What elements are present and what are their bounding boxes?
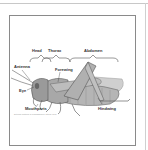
label-mouthparts: Mouthparts bbox=[25, 106, 47, 111]
grasshopper-illustration bbox=[0, 0, 148, 150]
label-antenna: Antenna bbox=[14, 64, 30, 69]
label-abdomen: Abdomen bbox=[84, 48, 102, 53]
section-braces bbox=[30, 55, 118, 62]
label-forewing: Forewing bbox=[55, 67, 73, 72]
figure-caption: External features of a grasshopper (late… bbox=[14, 113, 57, 115]
label-head: Head bbox=[32, 48, 42, 53]
label-thorax: Thorax bbox=[48, 48, 61, 53]
label-eye: Eye bbox=[19, 88, 26, 93]
label-hindwing: Hindwing bbox=[98, 106, 116, 111]
